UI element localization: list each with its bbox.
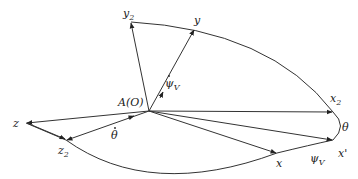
vector-y: [149, 30, 194, 111]
label-x: x: [276, 157, 283, 170]
label-psi-v: ψV: [310, 152, 326, 167]
arc-x2-xprime: [333, 112, 341, 140]
label-psi-v-dot: ψV: [165, 75, 181, 92]
label-z2: z2: [57, 144, 69, 159]
label-theta: θ: [342, 121, 349, 134]
arc-z-z2-arrow: [27, 123, 65, 139]
vector-x: [149, 111, 276, 153]
vector-xprime: [149, 111, 332, 140]
vector-x2: [149, 111, 332, 112]
label-x2: x2: [330, 92, 341, 107]
label-theta-dot: θ: [111, 127, 118, 142]
label-y2: y2: [122, 7, 134, 22]
label-z: z: [12, 117, 19, 130]
label-origin: A(O): [117, 96, 144, 109]
arc-z2-x-xprime: [66, 140, 333, 174]
label-xprime: x': [338, 147, 347, 160]
label-y: y: [193, 14, 201, 27]
coordinate-rotation-diagram: A(O) y2 y x2 x' x z z2 θ ψV θ ψV: [0, 0, 358, 179]
psi-v-dot-arrow: [160, 92, 163, 98]
svg-text:θ: θ: [111, 129, 118, 142]
svg-text:ψV: ψV: [165, 77, 181, 92]
arc-y2-x2: [131, 22, 333, 112]
